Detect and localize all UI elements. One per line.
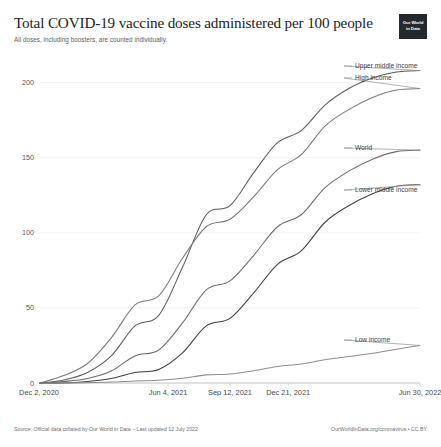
legend-label[interactable]: World (355, 144, 372, 151)
legend-label[interactable]: Upper middle income (355, 62, 418, 70)
y-tick-label: 200 (22, 78, 34, 87)
legend-label[interactable]: Low income (355, 336, 391, 343)
series-line[interactable] (40, 345, 420, 383)
owid-logo[interactable]: Our World in Data (399, 14, 427, 39)
chart-legend[interactable]: Upper middle incomeHigh incomeWorldLower… (344, 62, 420, 346)
x-axis-tick-labels: Dec 2, 2020Jun 4, 2021Sep 12, 2021Dec 21… (19, 388, 441, 396)
legend-label[interactable]: Lower middle income (355, 186, 418, 193)
gridlines (40, 83, 420, 308)
x-tick-marks (40, 383, 420, 386)
y-tick-label: 0 (30, 379, 34, 388)
chart-card: Total COVID-19 vaccine doses administere… (0, 0, 441, 447)
x-tick-label: Jun 30, 2022 (399, 388, 441, 396)
page-title: Total COVID-19 vaccine doses administere… (14, 14, 427, 32)
x-tick-label: Sep 12, 2021 (208, 388, 252, 396)
chart-footer: Source: Official data collated by Our Wo… (14, 426, 427, 438)
series-line[interactable] (40, 185, 420, 383)
y-tick-label: 50 (26, 303, 34, 312)
y-tick-label: 150 (22, 153, 34, 162)
source-note: Source: Official data collated by Our Wo… (14, 426, 198, 432)
chart-header: Total COVID-19 vaccine doses administere… (14, 14, 427, 60)
line-chart-svg[interactable]: 050100150200 Upper middle incomeHigh inc… (0, 56, 441, 396)
legend-label[interactable]: High income (355, 74, 392, 82)
x-tick-label: Dec 21, 2021 (266, 388, 310, 396)
x-tick-label: Dec 2, 2020 (19, 388, 59, 396)
owid-logo-line2: in Data (399, 26, 427, 32)
owid-logo-line1: Our World (399, 20, 427, 26)
chart-subtitle: All doses, including boosters, are count… (14, 32, 427, 44)
y-tick-label: 100 (22, 228, 34, 237)
plot-area[interactable]: 050100150200 Upper middle incomeHigh inc… (0, 56, 441, 396)
x-tick-label: Jun 4, 2021 (149, 388, 188, 396)
y-axis-tick-labels: 050100150200 (22, 78, 34, 387)
license-note[interactable]: OurWorldInData.org/coronavirus • CC BY (331, 426, 427, 432)
